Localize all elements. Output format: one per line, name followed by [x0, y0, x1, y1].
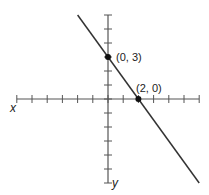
point-marker	[105, 54, 111, 60]
y-axis-label: y	[111, 176, 119, 190]
x-axis-label: x	[9, 101, 17, 115]
point-label-0-3: (0, 3)	[116, 51, 142, 63]
y-axis	[104, 15, 112, 183]
point-marker	[135, 96, 141, 102]
point-label-2-0: (2, 0)	[136, 82, 162, 94]
coordinate-plane: x y (0, 3) (2, 0)	[0, 0, 209, 195]
